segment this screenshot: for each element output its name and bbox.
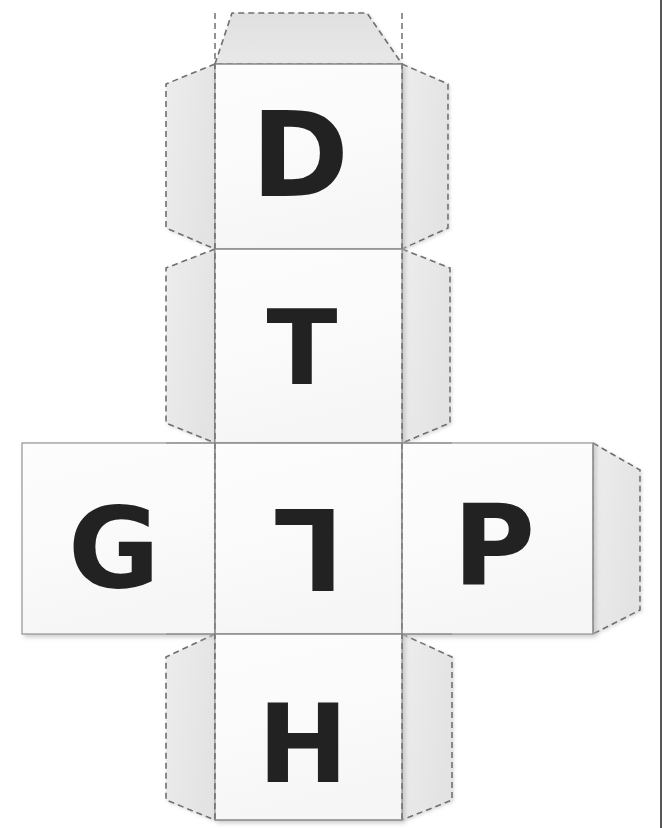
- glue-flap-d-right: [402, 64, 448, 249]
- cube-net-diagram: D T G L P H: [0, 0, 662, 828]
- cube-net-canvas: D T G L P H: [0, 0, 662, 828]
- panel-t[interactable]: T: [215, 249, 402, 443]
- panel-p[interactable]: P: [402, 443, 593, 634]
- glue-flap-d-left: [166, 64, 215, 249]
- glue-flap-h-left: [166, 634, 215, 820]
- glue-flap-t-left: [166, 249, 215, 443]
- panel-h-letter: H: [258, 682, 348, 807]
- glue-flap-p-right: [593, 443, 640, 634]
- panel-p-letter: P: [453, 480, 535, 610]
- glue-flap-h-right: [402, 634, 452, 820]
- glue-flap-t-right: [402, 249, 450, 443]
- panel-d[interactable]: D: [215, 64, 402, 249]
- panel-l-letter: L: [272, 483, 343, 613]
- panel-g-letter: G: [68, 483, 160, 613]
- panel-g[interactable]: G: [22, 443, 215, 634]
- panel-t-letter: T: [267, 287, 338, 409]
- panel-l[interactable]: L: [215, 443, 402, 634]
- panel-d-letter: D: [251, 86, 349, 224]
- panel-h[interactable]: H: [215, 634, 402, 820]
